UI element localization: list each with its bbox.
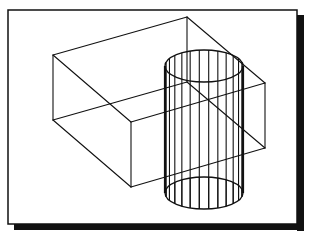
shadow-right bbox=[297, 15, 304, 231]
drawing-canvas bbox=[0, 0, 321, 233]
drawing-frame bbox=[8, 10, 297, 224]
shadow-bottom bbox=[14, 224, 304, 230]
